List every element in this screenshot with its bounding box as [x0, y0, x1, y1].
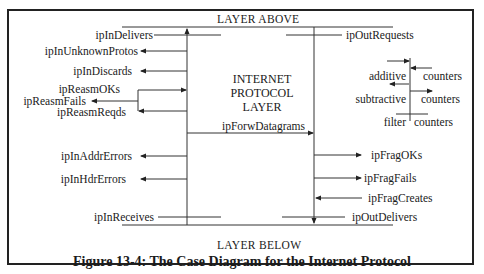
figure-caption: Figure 13-4: The Case Diagram for the In…: [0, 254, 484, 270]
legend-counters-additive: counters: [423, 70, 462, 82]
layer-above-label: LAYER ABOVE: [217, 13, 299, 25]
diagram-lines: [0, 0, 484, 274]
legend-subtractive: subtractive: [356, 93, 406, 105]
legend-counters-subtractive: counters: [421, 93, 460, 105]
counter-ipOutRequests: ipOutRequests: [346, 29, 414, 41]
title-line-2: PROTOCOL: [222, 86, 302, 100]
protocol-layer-title: INTERNET PROTOCOL LAYER: [222, 72, 302, 114]
counter-ipInReceives: ipInReceives: [94, 211, 154, 223]
counter-ipInAddrErrors: ipInAddrErrors: [61, 150, 132, 162]
counter-ipFragFails: ipFragFails: [364, 172, 416, 184]
legend-filter: filter: [384, 116, 406, 128]
counter-ipInHdrErrors: ipInHdrErrors: [61, 173, 126, 185]
counter-ipReasmReqds: ipReasmReqds: [57, 106, 126, 118]
counter-ipInDiscards: ipInDiscards: [73, 65, 132, 77]
counter-ipFragOKs: ipFragOKs: [371, 149, 422, 161]
legend-counters-filter: counters: [414, 116, 453, 128]
legend-additive: additive: [369, 70, 406, 82]
counter-ipInUnknownProtos: ipInUnknownProtos: [45, 45, 138, 57]
counter-ipReasmOKs: ipReasmOKs: [59, 83, 120, 95]
counter-ipForwDatagrams: ipForwDatagrams: [222, 120, 305, 132]
counter-ipFragCreates: ipFragCreates: [368, 192, 433, 204]
layer-below-label: LAYER BELOW: [217, 239, 301, 251]
title-line-1: INTERNET: [222, 72, 302, 86]
counter-ipOutDelivers: ipOutDelivers: [352, 211, 417, 223]
title-line-3: LAYER: [222, 100, 302, 114]
counter-ipInDelivers: ipInDelivers: [96, 29, 153, 41]
